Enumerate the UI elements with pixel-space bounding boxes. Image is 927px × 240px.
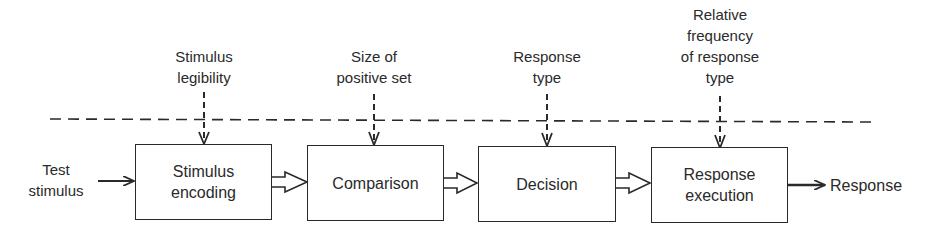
input-label: Test stimulus: [18, 159, 94, 201]
stage-box-decision: Decision: [478, 146, 616, 222]
dashed-boundary-line: [50, 119, 873, 122]
factor-label-execution: Relative frequency of response type: [670, 4, 770, 88]
hollow-arrow-3: [615, 173, 650, 193]
stage-box-execution: Response execution: [651, 147, 788, 223]
factor-label-encoding: Stimulus legibility: [164, 46, 244, 88]
factor-label-decision: Response type: [507, 46, 587, 88]
factor-arrow-encoding: [199, 92, 209, 144]
factor-label-comparison: Size of positive set: [324, 46, 424, 88]
stage-box-comparison: Comparison: [307, 145, 444, 221]
hollow-arrow-2: [443, 173, 477, 193]
stage-box-encoding: Stimulus encoding: [135, 144, 272, 220]
output-label: Response: [830, 175, 912, 196]
hollow-arrow-1: [271, 172, 307, 192]
